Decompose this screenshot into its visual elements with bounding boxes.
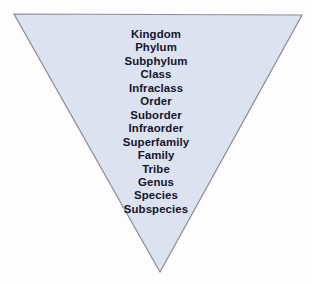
rank-item-infraorder: Infraorder [0,122,312,135]
taxonomic-hierarchy-diagram: Kingdom Phylum Subphylum Class Infraclas… [0,0,312,284]
rank-item-subspecies: Subspecies [0,203,312,216]
rank-item-genus: Genus [0,176,312,189]
rank-item-suborder: Suborder [0,109,312,122]
rank-item-phylum: Phylum [0,41,312,54]
rank-item-order: Order [0,95,312,108]
rank-item-class: Class [0,68,312,81]
rank-item-subphylum: Subphylum [0,55,312,68]
rank-item-family: Family [0,149,312,162]
rank-item-species: Species [0,189,312,202]
taxonomic-rank-list: Kingdom Phylum Subphylum Class Infraclas… [0,28,312,216]
rank-item-kingdom: Kingdom [0,28,312,41]
rank-item-infraclass: Infraclass [0,82,312,95]
rank-item-tribe: Tribe [0,163,312,176]
rank-item-superfamily: Superfamily [0,136,312,149]
